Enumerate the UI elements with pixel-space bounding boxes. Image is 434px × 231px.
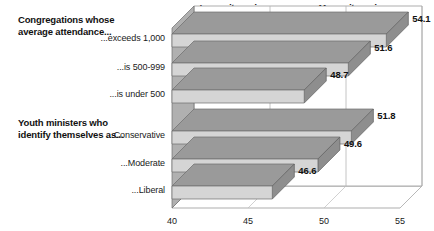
bar [172,68,326,103]
plot-area: 40455055 [0,0,434,231]
value-label-liberal: 46.6 [298,165,316,176]
bar [172,164,294,199]
x-tick-label: 40 [167,216,177,226]
value-label-conservative: 51.8 [377,110,395,121]
value-label-exceeds-1000: 54.1 [412,13,430,24]
value-label-under-500: 48.7 [330,69,348,80]
value-label-500-999: 51.6 [374,42,392,53]
value-label-moderate: 49.6 [344,138,362,149]
bar-chart: Congregations whose average attendance..… [0,0,434,231]
x-tick-label: 55 [395,216,405,226]
x-tick-label: 50 [319,216,329,226]
x-tick-label: 45 [243,216,253,226]
